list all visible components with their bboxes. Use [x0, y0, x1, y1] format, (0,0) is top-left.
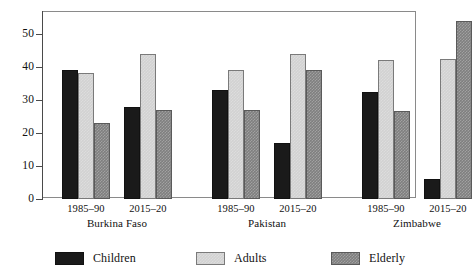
bar-children — [424, 179, 440, 199]
x-axis-period-label: 2015–20 — [108, 203, 188, 214]
legend-item-children: Children — [55, 249, 136, 267]
y-axis-tick-label: 0 — [0, 193, 34, 205]
y-axis-tick-value: 0 — [4, 193, 34, 205]
x-axis-country-label: Zimbabwe — [357, 217, 476, 229]
legend-item-adults: Adults — [196, 249, 267, 267]
bar-adults — [140, 54, 156, 199]
bar-children — [362, 92, 378, 199]
bar-adults — [378, 60, 394, 199]
x-axis-country-label: Pakistan — [207, 217, 327, 229]
bar-elderly — [306, 70, 322, 199]
legend-label-children: Children — [93, 252, 136, 265]
y-axis-tick-label: 50 — [0, 28, 34, 40]
legend-label-adults: Adults — [234, 252, 267, 265]
y-axis-tick-label: 40 — [0, 61, 34, 73]
bar-adults — [290, 54, 306, 199]
bar-adults — [440, 59, 456, 199]
legend-swatch-children — [55, 252, 84, 265]
y-axis-tick — [36, 199, 43, 200]
y-axis-tick-label: 10 — [0, 160, 34, 172]
legend-swatch-elderly — [331, 252, 360, 265]
bar-elderly — [94, 123, 110, 199]
bar-elderly — [244, 110, 260, 199]
bar-children — [62, 70, 78, 199]
bar-children — [274, 143, 290, 199]
y-axis-tick-label: 30 — [0, 94, 34, 106]
y-axis-tick-value: 20 — [4, 127, 34, 139]
bar-elderly — [456, 21, 472, 199]
bar-children — [124, 107, 140, 200]
bar-elderly — [394, 111, 410, 199]
legend-item-elderly: Elderly — [331, 249, 405, 267]
y-axis-tick-label: 20 — [0, 127, 34, 139]
y-axis-tick-value: 10 — [4, 160, 34, 172]
legend-label-elderly: Elderly — [369, 252, 405, 265]
bar-elderly — [156, 110, 172, 199]
x-axis-period-label: 2015–20 — [258, 203, 338, 214]
bar-adults — [228, 70, 244, 199]
x-axis-country-label: Burkina Faso — [57, 217, 177, 229]
chart-legend: ChildrenAdultsElderly — [0, 249, 425, 271]
x-axis-period-label: 2015–20 — [408, 203, 476, 214]
y-axis-tick-value: 40 — [4, 61, 34, 73]
bar-adults — [78, 73, 94, 199]
y-axis-tick-value: 30 — [4, 94, 34, 106]
bars-layer — [42, 11, 416, 199]
y-axis-tick-value: 50 — [4, 28, 34, 40]
bar-children — [212, 90, 228, 199]
legend-swatch-adults — [196, 252, 225, 265]
